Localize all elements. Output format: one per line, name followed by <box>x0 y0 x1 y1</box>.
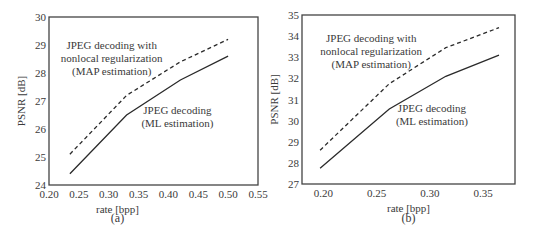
y-tick-label: 35 <box>288 9 300 21</box>
chart-figure: 242526272829300.200.250.300.350.400.450.… <box>0 0 533 238</box>
x-tick-label: 0.30 <box>420 187 440 199</box>
y-axis-label: PSNR [dB] <box>15 76 27 126</box>
chart-panel-a: 242526272829300.200.250.300.350.400.450.… <box>15 11 268 225</box>
panel-label: (b) <box>402 211 416 225</box>
x-tick-label: 0.35 <box>129 188 149 200</box>
y-tick-label: 29 <box>288 136 300 148</box>
y-tick-label: 30 <box>35 11 47 23</box>
x-tick-label: 0.30 <box>99 188 119 200</box>
x-tick-label: 0.40 <box>159 188 179 200</box>
y-tick-label: 28 <box>288 157 300 169</box>
y-tick-label: 28 <box>35 67 47 79</box>
y-axis-label: PSNR [dB] <box>268 74 280 124</box>
y-tick-label: 33 <box>288 51 300 63</box>
annotation-map: JPEG decoding withnonlocal regularizatio… <box>320 32 422 71</box>
panel-label: (a) <box>111 211 124 225</box>
y-tick-label: 25 <box>35 151 47 163</box>
y-tick-label: 27 <box>35 95 47 107</box>
x-tick-label: 0.50 <box>219 188 239 200</box>
y-tick-label: 29 <box>35 39 47 51</box>
x-tick-label: 0.20 <box>314 187 334 199</box>
x-tick-label: 0.35 <box>473 187 493 199</box>
x-tick-label: 0.45 <box>189 188 209 200</box>
y-tick-label: 34 <box>288 30 300 42</box>
x-tick-label: 0.25 <box>69 188 89 200</box>
y-tick-label: 32 <box>288 72 299 84</box>
y-tick-label: 26 <box>35 123 47 135</box>
y-tick-label: 31 <box>288 94 299 106</box>
x-tick-label: 0.55 <box>248 188 268 200</box>
x-tick-label: 0.25 <box>367 187 387 199</box>
chart-panel-b: 2728293031323334350.200.250.300.35rate [… <box>268 9 515 225</box>
y-tick-label: 30 <box>288 115 300 127</box>
figure: 242526272829300.200.250.300.350.400.450.… <box>0 0 533 238</box>
annotation-ml: JPEG decoding(ML estimation) <box>396 102 468 128</box>
annotation-map: JPEG decoding withnonlocal regularizatio… <box>61 39 163 78</box>
annotation-ml: JPEG decoding(ML estimation) <box>141 104 213 130</box>
y-tick-label: 27 <box>288 178 300 190</box>
x-tick-label: 0.20 <box>39 188 59 200</box>
